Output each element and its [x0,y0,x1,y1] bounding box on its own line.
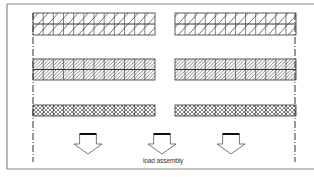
load-arrow-2-icon [148,134,176,154]
load-arrows [74,134,245,154]
middle-layer-segment-2 [175,59,296,80]
load-arrow-3-icon [217,134,245,154]
bottom-layer-segment-2 [175,105,296,116]
load-assembly-label: load assembly [143,157,183,164]
top-layer-segment-1 [33,13,155,35]
middle-layer-segment-1 [33,59,155,80]
arrow-outline [148,134,176,154]
layer-bands [33,13,296,116]
arrow-outline [74,134,102,154]
load-arrow-1-icon [74,134,102,154]
top-layer-segment-2 [175,13,296,35]
bottom-layer-segment-1 [33,105,155,116]
layered-structure-diagram [0,0,314,177]
arrow-outline [217,134,245,154]
